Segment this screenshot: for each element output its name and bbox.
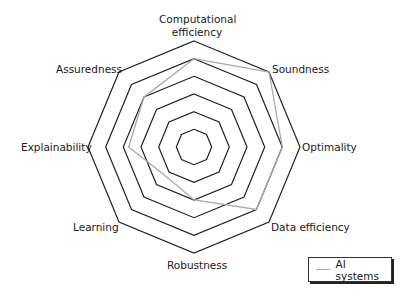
axis-label-optimality: Optimality (302, 141, 357, 154)
label-line: efficiency (159, 26, 235, 39)
label-line: Computational (159, 13, 235, 26)
axis-label-learning: Learning (73, 221, 119, 234)
grid-ring (176, 129, 211, 164)
axis-label-assuredness: Assuredness (56, 63, 122, 76)
grid-ring (141, 94, 247, 200)
legend-line-swatch-icon (316, 269, 330, 270)
axis-label-data-efficiency: Data efficiency (271, 221, 350, 234)
axis-label-explainability: Explainability (21, 141, 92, 154)
legend: AI systems (308, 257, 392, 282)
grid-ring (159, 112, 230, 183)
axis-label-soundness: Soundness (272, 63, 329, 76)
legend-label: AI systems (336, 258, 391, 282)
axis-label-computational-efficiency: Computational efficiency (159, 13, 235, 39)
axis-label-robustness: Robustness (167, 259, 227, 272)
